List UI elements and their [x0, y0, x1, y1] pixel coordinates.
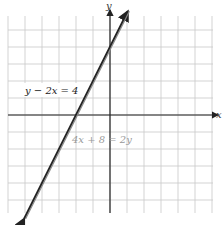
equation-label-1: y − 2x = 4 — [24, 85, 79, 96]
graph: x y y − 2x = 4 4x + 8 = 2y — [0, 0, 224, 225]
y-axis-label: y — [105, 0, 112, 11]
equation-label-2: 4x + 8 = 2y — [71, 134, 132, 145]
x-axis-label: x — [216, 109, 222, 120]
